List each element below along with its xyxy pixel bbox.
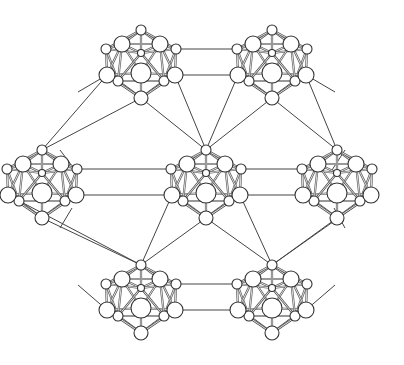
atom-back [39, 170, 46, 177]
atom-ur [152, 271, 168, 287]
atom-mr [167, 302, 183, 318]
atom-sr [171, 279, 181, 289]
atom-sl [2, 164, 12, 174]
atom-ml [99, 67, 115, 83]
atom-sr [72, 164, 82, 174]
atom-bot [35, 211, 49, 225]
atom-front [327, 183, 347, 203]
atom-mr [68, 187, 84, 203]
atom-ml [164, 187, 180, 203]
atom-ml [295, 187, 311, 203]
atom-ur [53, 156, 69, 172]
atom-back [269, 50, 276, 57]
atom-mr [232, 187, 248, 203]
atom-sl [297, 164, 307, 174]
icosahedron-top-right [230, 25, 314, 105]
atom-bot [330, 211, 344, 225]
atom-front [131, 63, 151, 83]
atom-mr [298, 67, 314, 83]
atom-ul [245, 36, 261, 52]
atom-ul [310, 156, 326, 172]
atom-sr [302, 44, 312, 54]
atom-sr [171, 44, 181, 54]
atom-front [262, 298, 282, 318]
atom-top [37, 145, 47, 155]
atom-top [136, 25, 146, 35]
atom-bot [265, 326, 279, 340]
atom-bot [134, 91, 148, 105]
atom-top [332, 145, 342, 155]
atom-front [32, 183, 52, 203]
atom-back [203, 170, 210, 177]
atom-ul [114, 271, 130, 287]
icosahedron-center [164, 145, 248, 225]
atom-ur [283, 36, 299, 52]
icosahedra-lattice-diagram [0, 0, 404, 365]
icosahedron-mid-left [0, 145, 84, 225]
atom-back [269, 285, 276, 292]
atom-ml [0, 187, 16, 203]
atom-bot [199, 211, 213, 225]
atom-bot [265, 91, 279, 105]
atom-front [262, 63, 282, 83]
atom-sl [232, 44, 242, 54]
atom-ul [179, 156, 195, 172]
icosahedron-bottom-left [99, 260, 183, 340]
atom-sr [302, 279, 312, 289]
atom-top [267, 260, 277, 270]
atom-bot [134, 326, 148, 340]
atom-ml [99, 302, 115, 318]
atom-ml [230, 302, 246, 318]
atom-sr [367, 164, 377, 174]
atom-mr [298, 302, 314, 318]
atom-ur [283, 271, 299, 287]
atom-top [136, 260, 146, 270]
atom-sl [101, 279, 111, 289]
atom-sl [101, 44, 111, 54]
atom-sl [166, 164, 176, 174]
atom-mr [167, 67, 183, 83]
icosahedron-bottom-right [230, 260, 314, 340]
atom-ul [15, 156, 31, 172]
atom-top [201, 145, 211, 155]
atom-sl [232, 279, 242, 289]
atom-back [138, 285, 145, 292]
atom-ur [348, 156, 364, 172]
atom-ur [152, 36, 168, 52]
atom-sr [236, 164, 246, 174]
atom-front [131, 298, 151, 318]
atom-top [267, 25, 277, 35]
icosahedron-top-left [99, 25, 183, 105]
atom-mr [363, 187, 379, 203]
atom-back [334, 170, 341, 177]
atom-back [138, 50, 145, 57]
atom-ul [114, 36, 130, 52]
icosahedral-clusters [0, 25, 379, 340]
atom-ml [230, 67, 246, 83]
atom-ur [217, 156, 233, 172]
atom-ul [245, 271, 261, 287]
icosahedron-mid-right [295, 145, 379, 225]
atom-front [196, 183, 216, 203]
